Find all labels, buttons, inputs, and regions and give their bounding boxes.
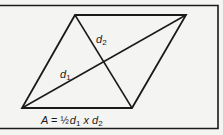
label-d1: d1 — [60, 68, 71, 82]
frame-border — [0, 6, 218, 129]
label-d2: d2 — [96, 33, 107, 47]
area-formula: A = ½d1 x d2 — [40, 114, 103, 128]
diagonal-d2 — [75, 15, 132, 108]
rhombus-area-diagram: d2 d1 A = ½d1 x d2 — [0, 0, 223, 135]
